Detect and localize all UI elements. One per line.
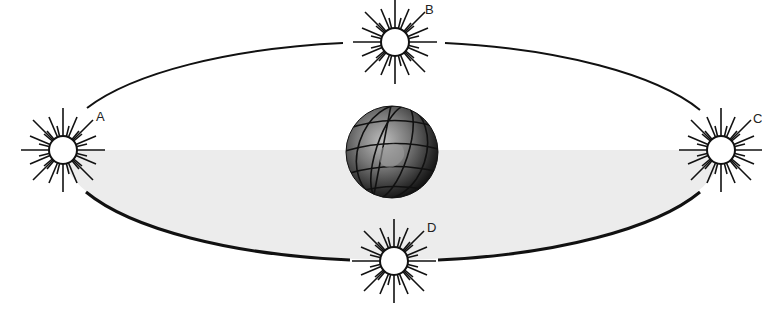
- label-c: C: [753, 111, 762, 126]
- sun-icon-d: [352, 219, 436, 303]
- label-a: A: [96, 109, 105, 124]
- sun-icon-c: [679, 108, 762, 192]
- sun-icon-a: [21, 108, 105, 192]
- label-d: D: [427, 220, 436, 235]
- orbit-diagram: A B C D: [0, 0, 762, 313]
- label-b: B: [425, 2, 434, 17]
